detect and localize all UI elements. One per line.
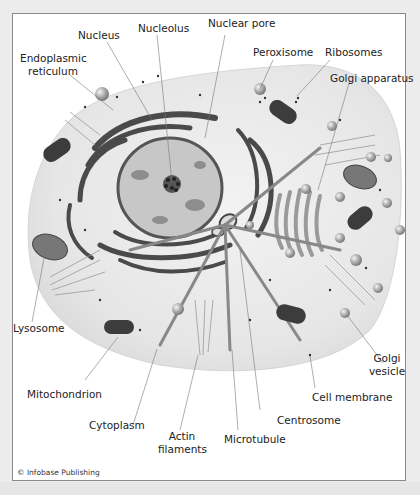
label-centrosome: Centrosome (277, 414, 341, 427)
label-nuclear-pore: Nuclear pore (208, 17, 275, 30)
label-cell-membrane: Cell membrane (312, 391, 392, 404)
label-golgi-vesicle: Golgi vesicle (368, 352, 406, 378)
label-peroxisome: Peroxisome (253, 46, 313, 59)
copyright-credit: © Infobase Publishing (17, 468, 100, 477)
label-golgi-apparatus: Golgi apparatus (330, 72, 414, 85)
label-endoplasmic-reticulum: Endoplasmic reticulum (20, 52, 86, 78)
label-golgi-vesicle-line2: vesicle (369, 365, 405, 377)
label-er-line1: Endoplasmic (20, 52, 87, 64)
label-nucleolus: Nucleolus (138, 22, 189, 35)
label-ribosomes: Ribosomes (325, 46, 382, 59)
nucleolus-shape (163, 175, 181, 193)
label-cytoplasm: Cytoplasm (89, 419, 145, 432)
label-mitochondrion: Mitochondrion (27, 388, 102, 401)
label-lysosome: Lysosome (13, 322, 65, 335)
label-actin-line1: Actin (169, 430, 195, 442)
label-er-line2: reticulum (28, 65, 78, 77)
label-golgi-vesicle-line1: Golgi (373, 352, 400, 364)
label-actin-line2: filaments (158, 443, 207, 455)
label-actin-filaments: Actin filaments (158, 430, 206, 456)
cell-membrane-shape (28, 65, 401, 371)
label-nucleus: Nucleus (78, 29, 120, 42)
label-microtubule: Microtubule (224, 433, 286, 446)
